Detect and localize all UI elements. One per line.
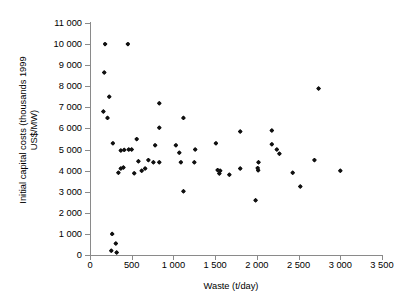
y-tick-label: 6 000 xyxy=(22,123,82,133)
y-tick-label: 7 000 xyxy=(22,102,82,112)
y-tick-label: 9 000 xyxy=(22,60,82,70)
x-axis-line xyxy=(89,255,383,256)
y-tick-label: 4 000 xyxy=(22,165,82,175)
y-tick-label: 8 000 xyxy=(22,81,82,91)
y-tick-label: 5 000 xyxy=(22,144,82,154)
x-axis-label: Waste (t/day) xyxy=(0,281,400,291)
x-tick-label: 3 500 xyxy=(352,260,400,270)
y-tick-label: 0 xyxy=(22,250,82,260)
y-tick-label: 1 000 xyxy=(22,228,82,238)
y-tick-label: 10 000 xyxy=(22,39,82,49)
y-tick-label: 2 000 xyxy=(22,207,82,217)
plot-area xyxy=(90,23,382,255)
y-tick-label: 11 000 xyxy=(22,18,82,28)
scatter-chart-figure: Initial capital costs (thousands 1999 US… xyxy=(0,0,400,304)
y-tick-label: 3 000 xyxy=(22,186,82,196)
